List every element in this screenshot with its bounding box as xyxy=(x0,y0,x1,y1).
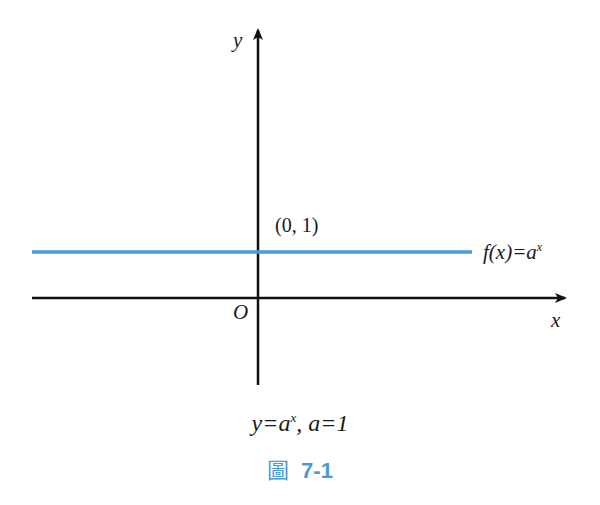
formula-rest: , a=1 xyxy=(296,410,348,436)
formula-caption: y=ax, a=1 xyxy=(0,410,600,437)
x-axis-label: x xyxy=(551,308,560,333)
origin-label: O xyxy=(233,300,248,325)
point-label: (0, 1) xyxy=(275,214,318,237)
function-label-exponent: x xyxy=(537,240,542,254)
figure-number: 7-1 xyxy=(301,458,333,483)
function-label: f(x)=ax xyxy=(483,240,542,265)
y-axis-label: y xyxy=(233,28,242,53)
formula-y: y=a xyxy=(252,410,291,436)
function-label-base: f(x)=a xyxy=(483,240,537,264)
figure-char: 圖 xyxy=(267,458,289,483)
figure-caption: 圖 7-1 xyxy=(0,452,600,484)
